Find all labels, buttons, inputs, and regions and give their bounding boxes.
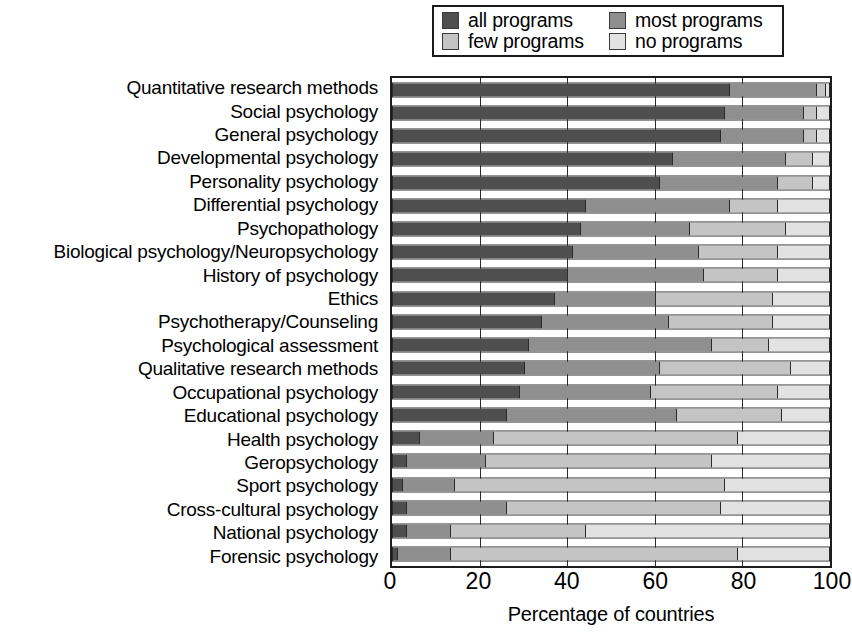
bar-segment-all <box>393 432 419 445</box>
x-axis-title: Percentage of countries <box>390 604 832 624</box>
stacked-bar <box>392 105 830 120</box>
bar-segment-few <box>668 315 773 328</box>
bar-segment-all <box>393 501 406 514</box>
stacked-bar <box>392 175 830 190</box>
category-label: History of psychology <box>0 263 384 286</box>
x-axis-tick-label: 40 <box>554 570 580 593</box>
bar-segment-few <box>703 269 777 282</box>
bar-segment-most <box>554 292 654 305</box>
plot-inner <box>392 78 830 566</box>
stacked-bar <box>392 314 830 329</box>
bar-segment-no <box>825 83 829 96</box>
bar-segment-most <box>519 385 650 398</box>
stacked-bar <box>392 129 830 144</box>
stacked-bar-chart-plot-area <box>390 76 832 568</box>
bar-segment-few <box>803 106 816 119</box>
category-label: Forensic psychology <box>0 544 384 567</box>
stacked-bar <box>392 152 830 167</box>
stacked-bar <box>392 245 830 260</box>
stacked-bar <box>392 407 830 422</box>
bar-segment-no <box>724 478 829 491</box>
bar-row <box>392 124 830 147</box>
bar-rows <box>392 78 830 566</box>
x-axis-tick-label: 60 <box>642 570 668 593</box>
bar-segment-all <box>393 339 528 352</box>
bar-segment-all <box>393 153 672 166</box>
legend-swatch-few-programs <box>442 33 459 50</box>
bar-segment-most <box>419 432 493 445</box>
stacked-bar <box>392 338 830 353</box>
bar-segment-no <box>737 548 829 561</box>
bar-segment-no <box>812 153 829 166</box>
bar-segment-no <box>777 385 829 398</box>
bar-segment-all <box>393 478 402 491</box>
stacked-bar <box>392 547 830 562</box>
bar-segment-few <box>676 408 781 421</box>
category-label: Qualitative research methods <box>0 357 384 380</box>
legend-swatch-no-programs <box>609 33 626 50</box>
x-axis-tick-label: 80 <box>731 570 757 593</box>
legend-label-all-programs: all programs <box>468 11 573 31</box>
x-axis-tick-label: 100 <box>813 570 851 593</box>
legend-entry-all-programs: all programs <box>442 11 609 31</box>
legend-label-few-programs: few programs <box>468 32 584 52</box>
legend-swatch-most-programs <box>609 12 626 29</box>
bar-row <box>392 194 830 217</box>
bar-segment-no <box>772 292 829 305</box>
category-label: Educational psychology <box>0 404 384 427</box>
bar-segment-all <box>393 130 720 143</box>
bar-segment-few <box>454 478 724 491</box>
bar-segment-few <box>493 432 737 445</box>
bar-row <box>392 450 830 473</box>
bar-segment-all <box>393 176 659 189</box>
category-label: Psychological assessment <box>0 334 384 357</box>
bar-row <box>392 357 830 380</box>
bar-segment-no <box>777 269 829 282</box>
bar-row <box>392 473 830 496</box>
stacked-bar <box>392 431 830 446</box>
legend-label-no-programs: no programs <box>635 32 742 52</box>
bar-segment-most <box>580 223 689 236</box>
category-label: Psychopathology <box>0 217 384 240</box>
stacked-bar <box>392 291 830 306</box>
bar-segment-most <box>567 269 702 282</box>
legend-swatch-all-programs <box>442 12 459 29</box>
bar-segment-most <box>724 106 802 119</box>
bar-segment-most <box>572 246 698 259</box>
bar-row <box>392 287 830 310</box>
bar-row <box>392 217 830 240</box>
category-label: Sport psychology <box>0 474 384 497</box>
stacked-bar <box>392 477 830 492</box>
bar-segment-most <box>402 478 454 491</box>
stacked-bar <box>392 361 830 376</box>
bar-segment-few <box>450 525 585 538</box>
category-label: Quantitative research methods <box>0 76 384 99</box>
bar-row <box>392 427 830 450</box>
bar-segment-most <box>406 501 506 514</box>
bar-segment-no <box>585 525 829 538</box>
bar-segment-all <box>393 106 724 119</box>
bar-segment-few <box>816 83 825 96</box>
category-label: Cross-cultural psychology <box>0 498 384 521</box>
bar-segment-no <box>812 176 829 189</box>
bar-segment-few <box>785 153 811 166</box>
category-axis-labels: Quantitative research methodsSocial psyc… <box>0 76 384 568</box>
bar-segment-few <box>689 223 785 236</box>
bar-segment-no <box>768 339 829 352</box>
bar-segment-most <box>672 153 785 166</box>
bar-segment-most <box>506 408 676 421</box>
bar-segment-few <box>485 455 712 468</box>
legend-label-most-programs: most programs <box>635 11 762 31</box>
bar-segment-all <box>393 525 406 538</box>
bar-segment-all <box>393 315 541 328</box>
bar-segment-no <box>777 246 829 259</box>
bar-segment-all <box>393 269 567 282</box>
chart-legend: all programs most programs few programs … <box>432 5 784 57</box>
bar-segment-few <box>711 339 768 352</box>
bar-segment-all <box>393 246 572 259</box>
bar-segment-no <box>711 455 829 468</box>
category-label: Occupational psychology <box>0 380 384 403</box>
bar-row <box>392 101 830 124</box>
bar-row <box>392 310 830 333</box>
bar-row <box>392 403 830 426</box>
